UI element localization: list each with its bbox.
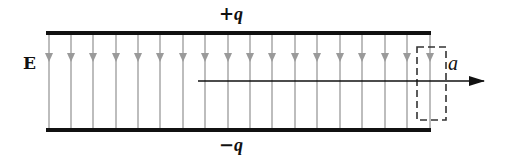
field-arrowhead-icon (224, 53, 232, 62)
top-plate-label: +q (219, 5, 243, 23)
field-arrowhead-icon (179, 53, 187, 62)
field-arrowhead-icon (381, 53, 389, 62)
field-arrowhead-icon (403, 53, 411, 62)
bottom-plate-label: −q (219, 136, 243, 154)
field-arrowhead-icon (67, 53, 75, 62)
field-arrowhead-icon (336, 53, 344, 62)
field-arrowhead-icon (291, 53, 299, 62)
capacitor-diagram: +q −q E a (0, 0, 507, 163)
field-arrowhead-icon (358, 53, 366, 62)
bottom-plate-sign: − (219, 134, 234, 155)
field-arrowhead-icon (426, 53, 434, 62)
field-arrowhead-icon (156, 53, 164, 62)
field-arrowhead-icon (201, 53, 209, 62)
field-arrowhead-icon (89, 53, 97, 62)
gaussian-surface-label: a (448, 53, 458, 73)
diagram-canvas (0, 0, 507, 163)
field-arrowhead-icon (246, 53, 254, 62)
top-plate-sign: + (219, 3, 234, 24)
top-plate-charge: q (234, 4, 243, 24)
bottom-plate-charge: q (234, 135, 243, 155)
field-arrowhead-icon (134, 53, 142, 62)
field-label-E: E (23, 55, 36, 72)
field-arrowhead-icon (112, 53, 120, 62)
field-arrowhead-icon (45, 53, 53, 62)
field-arrowhead-icon (268, 53, 276, 62)
field-arrowhead-icon (313, 53, 321, 62)
